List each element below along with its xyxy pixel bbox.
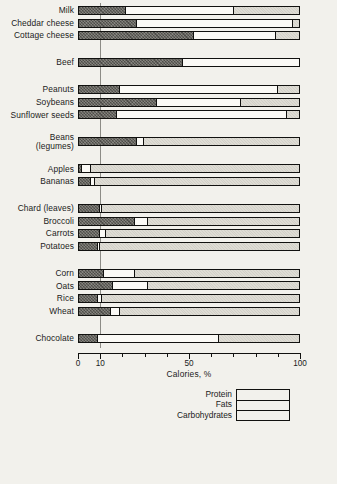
row-label: Carrots <box>46 229 74 238</box>
segment-fats <box>81 165 90 172</box>
bar-carrots <box>78 229 300 238</box>
bar-apples <box>78 164 300 173</box>
segment-protein <box>79 335 97 342</box>
segment-carbs <box>90 165 299 172</box>
segment-fats <box>182 59 299 66</box>
bar-wheat <box>78 307 300 316</box>
legend-swatch-carbs <box>237 410 289 420</box>
row-label: Bananas <box>40 177 74 186</box>
segment-carbs <box>134 270 299 277</box>
segment-protein <box>79 86 119 93</box>
segment-fats <box>156 99 240 106</box>
segment-fats <box>134 218 147 225</box>
row-label: Soybeans <box>36 98 74 107</box>
legend-swatch-stack <box>236 389 290 421</box>
bar-chard-leaves <box>78 204 300 213</box>
row-label: Sunflower seeds <box>11 111 74 120</box>
row-label: Milk <box>59 6 74 15</box>
x-tick <box>122 353 123 357</box>
segment-protein <box>79 308 110 315</box>
row-label: Apples <box>48 165 74 174</box>
x-tick <box>233 353 234 357</box>
row-label: Peanuts <box>43 85 74 94</box>
segment-carbs <box>275 32 299 39</box>
x-tick-label: 0 <box>76 359 81 368</box>
bar-peanuts <box>78 85 300 94</box>
x-tick-label: 100 <box>293 359 307 368</box>
segment-carbs <box>147 218 299 225</box>
bar-cottage-cheese <box>78 31 300 40</box>
segment-protein <box>79 230 99 237</box>
segment-protein <box>79 270 103 277</box>
segment-protein <box>79 7 125 14</box>
segment-fats <box>125 7 233 14</box>
segment-carbs <box>105 230 299 237</box>
row-label: Beans(legumes) <box>36 133 74 151</box>
row-label: Cheddar cheese <box>11 19 74 28</box>
segment-protein <box>79 295 97 302</box>
segment-fats <box>99 230 106 237</box>
segment-protein <box>79 99 156 106</box>
legend-label-carbs: Carbohydrates <box>160 410 232 420</box>
bar-beans-legumes <box>78 137 300 146</box>
segment-protein <box>79 243 97 250</box>
x-tick-label: 10 <box>96 359 105 368</box>
x-tick-label: 50 <box>184 359 193 368</box>
segment-carbs <box>101 295 299 302</box>
segment-protein <box>79 59 182 66</box>
row-label: Chocolate <box>35 334 74 343</box>
segment-carbs <box>101 205 299 212</box>
segment-protein <box>79 111 116 118</box>
segment-carbs <box>277 86 299 93</box>
legend-label-fats: Fats <box>160 399 232 409</box>
segment-fats <box>193 32 274 39</box>
legend-label-protein: Protein <box>160 389 232 399</box>
bar-milk <box>78 6 300 15</box>
segment-fats <box>136 20 292 27</box>
bar-sunflower-seeds <box>78 110 300 119</box>
row-label: Chard (leaves) <box>18 204 74 213</box>
bar-corn <box>78 269 300 278</box>
segment-carbs <box>240 99 299 106</box>
segment-fats <box>97 335 218 342</box>
segment-carbs <box>286 111 299 118</box>
segment-carbs <box>147 282 299 289</box>
bar-broccoli <box>78 217 300 226</box>
segment-fats <box>110 308 119 315</box>
bar-cheddar-cheese <box>78 19 300 28</box>
x-tick <box>278 353 279 357</box>
segment-fats <box>112 282 147 289</box>
segment-protein <box>79 32 193 39</box>
segment-fats <box>136 138 143 145</box>
row-label: Potatoes <box>40 242 74 251</box>
segment-carbs <box>218 335 299 342</box>
legend-swatch-protein <box>237 390 289 400</box>
bar-rice <box>78 294 300 303</box>
x-tick <box>145 353 146 357</box>
segment-protein <box>79 178 90 185</box>
segment-fats <box>119 86 277 93</box>
x-tick <box>167 353 168 357</box>
bar-oats <box>78 281 300 290</box>
segment-carbs <box>99 243 299 250</box>
segment-fats <box>116 111 285 118</box>
segment-carbs <box>94 178 299 185</box>
legend-swatch-fats <box>237 400 289 410</box>
bar-bananas <box>78 177 300 186</box>
segment-carbs <box>143 138 299 145</box>
segment-protein <box>79 20 136 27</box>
row-label: Broccoli <box>43 217 74 226</box>
bar-potatoes <box>78 242 300 251</box>
row-label: Oats <box>56 282 74 291</box>
row-label: Rice <box>57 294 74 303</box>
segment-carbs <box>119 308 299 315</box>
x-tick <box>256 353 257 357</box>
segment-protein <box>79 282 112 289</box>
row-label: Wheat <box>49 307 74 316</box>
segment-fats <box>103 270 134 277</box>
segment-carbs <box>292 20 299 27</box>
row-label: Beef <box>56 58 74 67</box>
segment-protein <box>79 138 136 145</box>
segment-protein <box>79 205 99 212</box>
segment-carbs <box>233 7 299 14</box>
